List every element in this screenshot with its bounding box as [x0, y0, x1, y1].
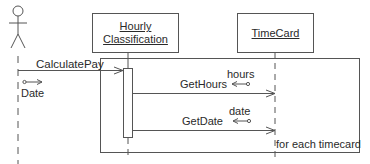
date-return-arrow-icon — [233, 119, 251, 124]
hours-return-arrow-icon — [232, 82, 250, 87]
calculatepay-label: CalculatePay — [36, 58, 104, 70]
date-param-arrow-icon — [23, 80, 42, 85]
hourly-classification-object[interactable]: Hourly Classification — [92, 13, 179, 53]
activation-bar — [124, 69, 133, 138]
hourly-label-line2: Classification — [103, 33, 168, 46]
actor-stick-figure-icon — [9, 6, 27, 48]
date-return-label: date — [229, 105, 250, 117]
hours-return-label: hours — [227, 68, 255, 80]
timecard-label: TimeCard — [252, 27, 300, 40]
date-param-label: Date — [21, 87, 44, 99]
gethours-arrow — [132, 90, 275, 97]
gethours-label: GetHours — [180, 78, 227, 90]
getdate-label: GetDate — [182, 115, 223, 127]
getdate-arrow — [132, 127, 275, 134]
loop-guard-label: for each timecard — [276, 138, 361, 150]
timecard-object[interactable]: TimeCard — [237, 13, 314, 53]
hourly-label-line1: Hourly — [120, 20, 152, 33]
